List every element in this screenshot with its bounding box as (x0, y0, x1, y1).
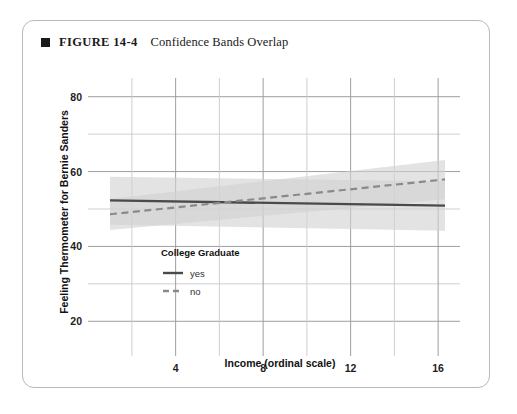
figure-caption: FIGURE 14-4 Confidence Bands Overlap (41, 35, 288, 50)
figure-card: FIGURE 14-4 Confidence Bands Overlap (22, 20, 490, 388)
figure-number-label: FIGURE 14-4 (59, 35, 138, 50)
filled-square-icon (41, 38, 50, 47)
figure-title: Confidence Bands Overlap (151, 35, 289, 50)
